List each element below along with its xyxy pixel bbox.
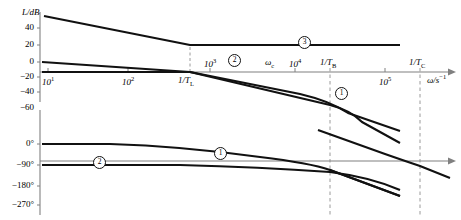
breakpoint-label-TC: 1/TC	[409, 58, 425, 69]
xtick-10e1-exponent: 1	[51, 75, 54, 82]
breakpoint-label-TB: 1/TB	[320, 58, 336, 69]
breakpoint-TC-subscript: C	[421, 62, 425, 69]
xtick-10e5: 105	[379, 76, 391, 87]
breakpoint-label-wc: ωc	[265, 58, 274, 69]
curve-marker-2-magnitude: 2	[228, 54, 241, 67]
phase-curve-1-tail	[330, 170, 400, 196]
phase-ytick-minus90: −90°	[0, 160, 34, 169]
xtick-10e3-exponent: 3	[213, 57, 216, 64]
phase-curve-upper-branch	[318, 130, 450, 178]
phase-ytick-0: 0°	[0, 139, 34, 148]
frequency-axis-label: ω/s−1	[427, 74, 446, 85]
xtick-10e3: 103	[204, 58, 216, 69]
breakpoint-TL-subscript: L	[190, 80, 194, 87]
curve-marker-1-magnitude: 1	[335, 87, 348, 100]
xtick-10e1: 101	[42, 76, 54, 87]
xtick-10e3-mantissa: 10	[204, 59, 213, 69]
curve-marker-3-magnitude: 3	[298, 36, 311, 49]
magnitude-curve-1	[42, 72, 400, 143]
xtick-10e4-mantissa: 10	[289, 59, 298, 69]
xtick-10e2: 102	[122, 76, 134, 87]
frequency-axis-label-text: ω/s	[427, 75, 439, 85]
frequency-axis-arrow	[448, 69, 456, 76]
curve-marker-2-phase: 2	[93, 156, 106, 169]
breakpoint-TB-text: 1/T	[320, 57, 332, 67]
xtick-10e5-mantissa: 10	[379, 77, 388, 87]
magnitude-ytick-minus20: −20	[0, 72, 34, 81]
magnitude-axis-label: L/dB	[22, 8, 40, 17]
magnitude-ytick-20: 20	[0, 40, 34, 49]
xtick-10e2-mantissa: 10	[122, 77, 131, 87]
breakpoint-TL-text: 1/T	[178, 75, 190, 85]
xtick-10e4-exponent: 4	[298, 57, 301, 64]
breakpoint-label-TL: 1/TL	[178, 76, 194, 87]
magnitude-ytick-minus40: −40	[0, 87, 34, 96]
xtick-10e5-exponent: 5	[388, 75, 391, 82]
phase-curve-2	[42, 165, 400, 190]
curve-marker-1-phase: 1	[214, 147, 227, 160]
xtick-10e4: 104	[289, 58, 301, 69]
breakpoint-TC-text: 1/T	[409, 57, 421, 67]
xtick-10e1-mantissa: 10	[42, 77, 51, 87]
magnitude-curve-3	[44, 16, 400, 45]
xtick-10e2-exponent: 2	[131, 75, 134, 82]
phase-axis-arrow	[448, 158, 456, 165]
phase-ytick-minus180: −180°	[0, 181, 34, 190]
phase-ytick-minus270: −270°	[0, 200, 34, 209]
frequency-axis-label-exponent: −1	[439, 73, 446, 80]
bode-plot-figure: L/dB 40 20 0 −20 −40 −60 0° −90° −180° −…	[0, 0, 461, 220]
magnitude-ytick-minus60: −60	[0, 103, 34, 112]
breakpoint-TB-subscript: B	[332, 62, 336, 69]
magnitude-ytick-40: 40	[0, 23, 34, 32]
breakpoint-wc-subscript: c	[271, 62, 274, 69]
plot-canvas	[0, 0, 461, 220]
magnitude-ytick-0: 0	[0, 57, 34, 66]
